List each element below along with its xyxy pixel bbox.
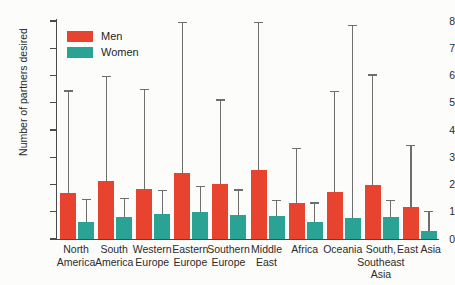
legend-swatch	[67, 31, 93, 42]
bar-group	[401, 21, 437, 239]
bar-men[interactable]	[174, 173, 190, 239]
bar-group	[249, 21, 285, 239]
y-axis-tick	[50, 129, 56, 130]
error-bar-cap-men	[102, 76, 111, 77]
error-bar-cap-men	[140, 89, 149, 90]
bar-group	[363, 21, 399, 239]
error-bar-women	[352, 26, 353, 217]
error-bar-women	[390, 201, 391, 217]
error-bar-men	[68, 92, 69, 193]
error-bar-cap-men	[292, 148, 301, 149]
bar-group	[134, 21, 170, 239]
error-bar-women	[200, 187, 201, 212]
error-bar-cap-men	[406, 145, 415, 146]
error-bar-cap-men	[178, 22, 187, 23]
chart-legend: MenWomen	[67, 30, 139, 62]
x-axis-label: East Asia	[392, 243, 446, 256]
error-bar-women	[86, 200, 87, 222]
error-bar-cap-women	[310, 202, 319, 203]
error-bar-cap-men	[254, 22, 263, 23]
error-bar-cap-women	[272, 200, 281, 201]
bar-women[interactable]	[383, 217, 399, 239]
bar-women[interactable]	[154, 214, 170, 239]
bar-women[interactable]	[345, 218, 361, 239]
error-bar-cap-women	[424, 211, 433, 212]
bar-women[interactable]	[421, 231, 437, 239]
y-axis-tick	[50, 102, 56, 103]
error-bar-women	[276, 201, 277, 216]
error-bar-cap-women	[348, 25, 357, 26]
y-axis-tick	[50, 75, 56, 76]
error-bar-cap-women	[196, 186, 205, 187]
error-bar-men	[410, 146, 411, 206]
bar-women[interactable]	[78, 222, 94, 239]
y-axis-tick	[50, 157, 56, 158]
error-bar-cap-women	[158, 190, 167, 191]
x-axis-line	[56, 239, 439, 240]
error-bar-women	[238, 191, 239, 215]
y-axis-tick	[50, 184, 56, 185]
legend-label: Men	[101, 30, 122, 42]
bar-men[interactable]	[403, 207, 419, 239]
error-bar-men	[334, 92, 335, 191]
error-bar-men	[144, 90, 145, 189]
bar-women[interactable]	[269, 216, 285, 239]
error-bar-cap-women	[82, 199, 91, 200]
bar-men[interactable]	[289, 203, 305, 239]
error-bar-cap-women	[386, 200, 395, 201]
error-bar-men	[106, 77, 107, 181]
bar-group	[287, 21, 323, 239]
bar-group	[325, 21, 361, 239]
legend-item[interactable]: Women	[67, 46, 139, 58]
chart-figure: Number of partners desired 012345678 Nor…	[0, 0, 455, 285]
legend-item[interactable]: Men	[67, 30, 139, 42]
bar-men[interactable]	[98, 181, 114, 239]
bar-men[interactable]	[251, 170, 267, 239]
error-bar-men	[258, 23, 259, 170]
error-bar-men	[220, 101, 221, 184]
error-bar-women	[162, 191, 163, 214]
bar-men[interactable]	[136, 189, 152, 239]
bar-women[interactable]	[192, 212, 208, 239]
bar-group	[210, 21, 246, 239]
error-bar-cap-men	[64, 90, 73, 91]
bar-women[interactable]	[230, 215, 246, 239]
bar-women[interactable]	[307, 222, 323, 239]
legend-label: Women	[101, 46, 139, 58]
bar-men[interactable]	[212, 184, 228, 239]
bar-group	[172, 21, 208, 239]
error-bar-men	[296, 149, 297, 202]
y-axis-tick	[50, 238, 56, 239]
error-bar-women	[314, 204, 315, 223]
error-bar-men	[182, 23, 183, 173]
bar-men[interactable]	[327, 192, 343, 239]
bar-women[interactable]	[116, 217, 132, 239]
y-axis-tick	[50, 48, 56, 49]
error-bar-cap-men	[330, 91, 339, 92]
legend-swatch	[67, 47, 93, 58]
error-bar-cap-men	[216, 99, 225, 100]
error-bar-women	[428, 212, 429, 231]
error-bar-men	[372, 76, 373, 186]
y-axis-title: Number of partners desired	[17, 7, 29, 177]
y-axis-tick	[50, 211, 56, 212]
y-axis-tick	[50, 20, 56, 21]
bar-men[interactable]	[365, 185, 381, 239]
error-bar-women	[124, 199, 125, 217]
error-bar-cap-women	[234, 189, 243, 190]
bar-men[interactable]	[60, 193, 76, 239]
error-bar-cap-men	[368, 74, 377, 75]
error-bar-cap-women	[120, 198, 129, 199]
